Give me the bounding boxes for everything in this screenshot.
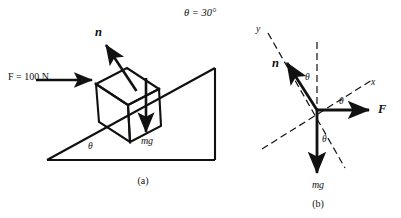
block-top-face	[96, 68, 159, 105]
panel-b-angle-lower-label: θ	[322, 135, 327, 145]
panel-b-y-axis-label: y	[256, 25, 260, 35]
panel-b-normal-force-arrow	[287, 63, 317, 110]
panel-b-angle-upper-left-label: θ	[305, 73, 310, 83]
panel-b-y-axis-dashed-line	[268, 33, 345, 168]
panel-a-caption: (a)	[137, 176, 148, 186]
panel-a-normal-force-label: n	[95, 26, 102, 39]
panel-b-angle-right-label: θ	[339, 97, 344, 107]
panel-b-applied-force-label: F	[378, 103, 386, 116]
physics-figure: θ = 30° n F = 100 N mg θ (a) y x n F mg …	[0, 0, 401, 218]
panel-a-normal-force-arrow	[106, 45, 137, 91]
panel-b-x-axis-label: x	[371, 78, 375, 88]
figure-canvas	[0, 0, 401, 218]
panel-b-normal-force-label: n	[272, 57, 279, 70]
panel-a-incline-angle-label: θ	[88, 142, 93, 152]
block-front-face	[96, 84, 130, 142]
panel-b-free-body-group	[262, 33, 372, 173]
panel-b-caption: (b)	[312, 199, 324, 209]
panel-a-weight-label: mg	[141, 136, 153, 146]
panel-a-applied-force-label: F = 100 N	[8, 72, 49, 82]
panel-a-incline-group	[36, 45, 215, 160]
theta-given-label: θ = 30°	[184, 8, 216, 19]
panel-b-weight-label: mg	[312, 180, 324, 190]
